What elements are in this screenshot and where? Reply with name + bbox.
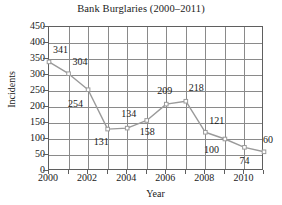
data-point-marker <box>223 137 227 141</box>
data-point-marker <box>125 126 129 130</box>
data-point-label: 304 <box>73 57 88 67</box>
data-point-label: 158 <box>140 127 155 137</box>
data-point-marker <box>204 130 208 134</box>
chart-screenshot: Bank Burglaries (2000–2011) 050100150200… <box>0 0 282 205</box>
x-tick-label: 2010 <box>223 173 263 183</box>
y-tick-label: 450 <box>3 21 45 31</box>
data-point-marker <box>47 60 51 64</box>
data-point-marker <box>106 127 110 131</box>
x-tick-label: 2002 <box>67 173 107 183</box>
data-point-label: 74 <box>239 156 249 166</box>
x-axis-labels: 200020022004200620082010 <box>48 170 263 190</box>
data-point-label: 254 <box>68 99 83 109</box>
data-point-label: 100 <box>204 145 219 155</box>
data-point-label: 134 <box>121 109 136 119</box>
chart-title: Bank Burglaries (2000–2011) <box>0 3 282 14</box>
data-point-marker <box>243 146 247 150</box>
y-tick-label: 50 <box>3 149 45 159</box>
data-point-marker <box>164 102 168 106</box>
x-tick-label: 2004 <box>106 173 146 183</box>
y-tick-label: 400 <box>3 37 45 47</box>
data-point-marker <box>184 99 188 103</box>
data-point-marker <box>262 150 266 154</box>
data-point-label: 131 <box>94 137 109 147</box>
data-point-label: 218 <box>189 83 204 93</box>
y-axis-title: Incidents <box>6 60 17 120</box>
x-tick-label: 2006 <box>145 173 185 183</box>
x-tick-label: 2000 <box>28 173 68 183</box>
data-point-marker <box>67 72 71 76</box>
x-axis-title: Year <box>48 188 263 199</box>
data-point-label: 60 <box>263 135 273 145</box>
data-point-label: 341 <box>53 45 68 55</box>
data-point-label: 121 <box>209 116 224 126</box>
data-point-marker <box>86 88 90 92</box>
data-point-label: 209 <box>157 86 172 96</box>
x-tick-label: 2008 <box>184 173 224 183</box>
plot-area: 3413042541311341582092181211007460 <box>48 26 263 170</box>
y-tick-label: 100 <box>3 133 45 143</box>
data-point-marker <box>145 119 149 123</box>
